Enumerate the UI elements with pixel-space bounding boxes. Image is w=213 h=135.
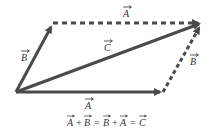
svg-text:C: C xyxy=(104,42,111,53)
label-a-bottom: A xyxy=(84,98,94,112)
eq-term-b2: B xyxy=(103,117,109,128)
label-a-top: A xyxy=(122,6,132,20)
eq-plus-1: + xyxy=(76,117,82,128)
eq-term-a1: A xyxy=(66,117,74,128)
label-b-right: B xyxy=(190,54,199,68)
eq-equals-1: = xyxy=(94,117,100,128)
equation: A + B = B + A = C xyxy=(66,115,147,128)
eq-term-b1: B xyxy=(84,117,90,128)
label-b-left: B xyxy=(21,50,30,64)
svg-text:B: B xyxy=(21,52,27,63)
vector-c-resultant xyxy=(16,24,199,92)
svg-text:B: B xyxy=(190,56,196,67)
eq-equals-2: = xyxy=(130,117,136,128)
svg-text:A: A xyxy=(122,8,130,19)
svg-text:A: A xyxy=(84,100,92,111)
eq-term-a2: A xyxy=(119,117,127,128)
label-c-mid: C xyxy=(104,40,113,54)
vector-diagram: A B C B A A + B = B + A = C xyxy=(0,0,213,135)
eq-term-c: C xyxy=(139,117,146,128)
eq-plus-2: + xyxy=(112,117,118,128)
